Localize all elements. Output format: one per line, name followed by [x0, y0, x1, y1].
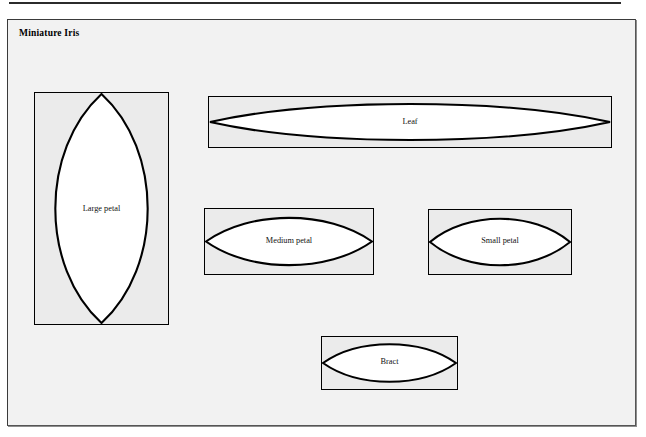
leaf-lens-icon	[209, 97, 611, 147]
shape-cell-bract[interactable]: Bract	[321, 336, 458, 390]
small-petal-lens-icon	[429, 210, 571, 274]
bract-lens-icon	[322, 337, 457, 389]
adjacent-panel-bottom-edge	[9, 1, 621, 4]
shape-cell-small-petal[interactable]: Small petal	[428, 209, 572, 275]
shape-cell-large-petal[interactable]: Large petal	[34, 92, 169, 325]
page-title: Miniature Iris	[19, 28, 79, 38]
large-petal-lens-icon	[35, 93, 168, 324]
shape-cell-leaf[interactable]: Leaf	[208, 96, 612, 148]
shape-cell-medium-petal[interactable]: Medium petal	[204, 208, 374, 275]
medium-petal-lens-icon	[205, 209, 373, 274]
miniature-iris-panel: Miniature Iris Large petal Leaf Medium p…	[7, 19, 636, 426]
